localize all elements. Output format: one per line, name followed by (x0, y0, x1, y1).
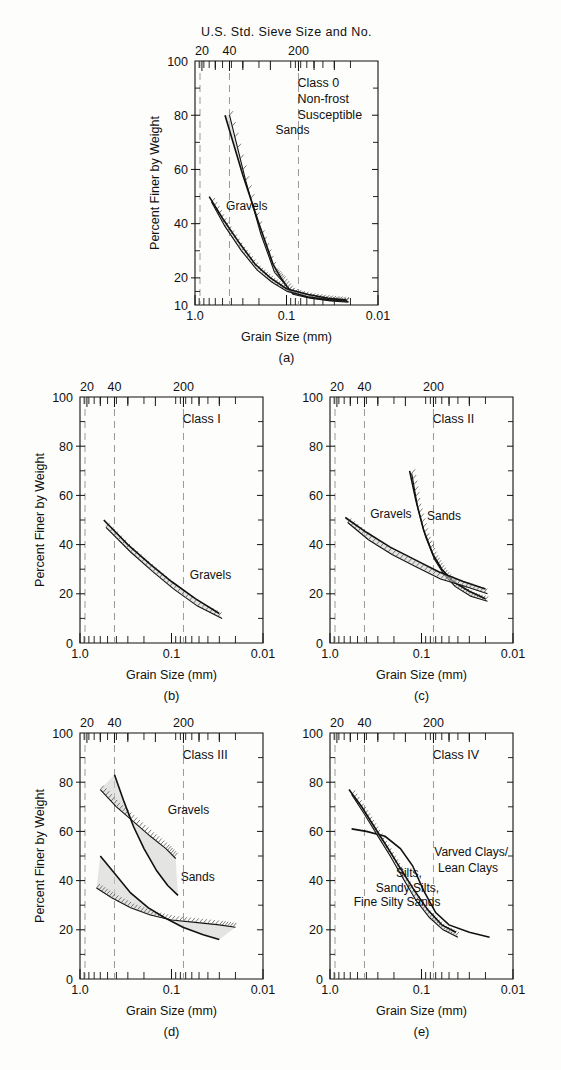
sieve-tick-label: 200 (423, 380, 444, 394)
y-tick-label: 40 (309, 874, 323, 888)
plot-frame (195, 61, 378, 305)
series-hatch (412, 469, 416, 473)
x-axis-title: Grain Size (mm) (126, 668, 217, 682)
panel-caption: (e) (414, 1024, 430, 1039)
series-hatch (153, 834, 157, 838)
series-hatch (227, 922, 231, 926)
series-hatch (423, 523, 427, 527)
series-hatch (156, 836, 160, 840)
curve-label: Gravels (190, 568, 231, 582)
curve-label: Fine Silty Sands (354, 895, 441, 909)
y-tick-label: 100 (52, 727, 73, 741)
y-tick-label: 80 (309, 440, 323, 454)
series-curve-upper (345, 518, 485, 589)
series-hatch (161, 841, 165, 845)
sieve-tick-label: 40 (108, 380, 122, 394)
y-tick-label: 80 (59, 776, 73, 790)
y-tick-label: 20 (59, 587, 73, 601)
series-hatch (413, 475, 417, 479)
series-hatch (215, 920, 219, 924)
class-sublabel-2: Susceptible (297, 108, 362, 122)
sieve-tick-label: 40 (358, 716, 372, 730)
y-tick-label: 60 (59, 825, 73, 839)
sieve-tick-label: 20 (330, 380, 344, 394)
series-hatch (211, 920, 215, 924)
y-tick-label: 60 (174, 163, 188, 177)
series-hatch (251, 194, 255, 198)
series-hatch (415, 486, 419, 490)
series-hatch (172, 916, 176, 920)
curve-label: Varved Clays/ (434, 845, 508, 859)
series-curve-upper (104, 520, 220, 614)
series-hatch (243, 165, 247, 169)
series-hatch (229, 111, 233, 115)
plot-frame (80, 397, 263, 643)
x-tick-label: 0.1 (163, 647, 180, 661)
class-label: Class 0 (297, 76, 339, 90)
y-tick-label: 20 (174, 271, 188, 285)
curve-label: Sands (427, 509, 461, 523)
series-hatch (166, 845, 170, 849)
series-hatch (174, 853, 178, 857)
grain-size-figure: 100806040201020402001.00.10.01Grain Size… (0, 0, 561, 1070)
series-hatch (219, 921, 223, 925)
x-tick-label: 0.01 (251, 647, 275, 661)
x-axis-title: Grain Size (mm) (241, 330, 332, 344)
series-hatch (416, 492, 420, 496)
sieve-tick-label: 20 (80, 380, 94, 394)
y-axis-title: Percent Finer by Weight (33, 453, 47, 587)
series-hatch (158, 838, 162, 842)
panel-caption: (c) (414, 688, 429, 703)
class-label: Class I (182, 412, 220, 426)
series-hatch (240, 155, 244, 159)
curve-label: Sands (181, 870, 215, 884)
curve-label: Sands (276, 123, 310, 137)
x-axis-title: Grain Size (mm) (126, 1004, 217, 1018)
x-tick-label: 0.01 (501, 983, 525, 997)
series-hatch (414, 481, 418, 485)
class-sublabel-1: Non-frost (297, 92, 349, 106)
series-hatch (199, 919, 203, 923)
y-tick-label: 40 (174, 217, 188, 231)
y-tick-label: 40 (309, 538, 323, 552)
series-hatch (171, 850, 175, 854)
y-tick-label: 80 (174, 109, 188, 123)
curve-label: Sandy Silts, (376, 881, 439, 895)
y-tick-label: 100 (302, 727, 323, 741)
curve-label: Gravels (226, 199, 267, 213)
y-axis-title: Percent Finer by Weight (148, 116, 162, 250)
y-tick-label: 60 (59, 489, 73, 503)
series-hatch (148, 830, 152, 834)
y-tick-label: 60 (309, 489, 323, 503)
y-tick-label: 80 (309, 776, 323, 790)
y-tick-label: 20 (309, 923, 323, 937)
class-label: Class IV (432, 748, 479, 762)
series-hatch (168, 846, 172, 850)
series-hatch (136, 820, 140, 824)
series-hatch (417, 498, 421, 502)
x-tick-label: 1.0 (321, 647, 338, 661)
series-hatch (225, 922, 229, 926)
series-hatch (195, 918, 199, 922)
series-hatch (235, 133, 239, 137)
x-tick-label: 0.01 (501, 647, 525, 661)
x-tick-label: 1.0 (71, 983, 88, 997)
series-hatch (203, 919, 207, 923)
series-hatch (222, 921, 226, 925)
curve-label: Lean Clays (438, 861, 498, 875)
sieve-tick-label: 40 (223, 44, 237, 58)
sieve-tick-label: 20 (80, 716, 94, 730)
curve-label: Gravels (370, 507, 411, 521)
series-hatch (230, 923, 234, 927)
x-axis-title: Grain Size (mm) (376, 1004, 467, 1018)
series-hatch (150, 832, 154, 836)
x-tick-label: 0.1 (413, 983, 430, 997)
series-hatch (134, 818, 138, 822)
panel-a: 100806040201020402001.00.10.01Grain Size… (148, 25, 390, 365)
y-tick-label: 40 (59, 538, 73, 552)
y-tick-label: 100 (52, 391, 73, 405)
sieve-tick-label: 200 (288, 44, 309, 58)
panel-caption: (b) (164, 688, 180, 703)
x-tick-label: 0.01 (251, 983, 275, 997)
figure-root: 100806040201020402001.00.10.01Grain Size… (0, 0, 561, 1070)
